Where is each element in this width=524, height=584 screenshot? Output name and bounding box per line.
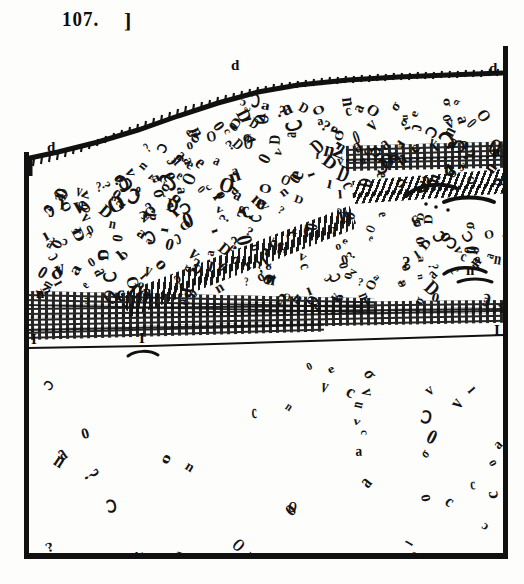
pebble-mark: v [345, 267, 359, 275]
pebble-mark: σ [465, 221, 481, 229]
cross-section-figure: vσvO?vnσOcσOeDOɔocaaσa?aDıↃnaɔı?ocOɔıı0e… [28, 46, 504, 554]
annotation-n-right-upper: n [492, 143, 500, 160]
pebble-mark: ? [244, 276, 249, 289]
lower-bed-contact-line [28, 332, 504, 354]
plate-canvas: 107. ] [0, 0, 524, 584]
annotation-n-center-mid: n [143, 283, 151, 300]
fossil-shell-marks [398, 174, 504, 219]
pebble-mark: c [129, 551, 145, 554]
annotation-i-left-base: I [31, 331, 37, 348]
pebble-mark: Ↄ [252, 92, 262, 110]
pebble-mark: n [327, 221, 336, 237]
pebble-mark: a [356, 443, 363, 458]
pebble-mark: σ [441, 98, 454, 107]
annotation-d-ridge: d [231, 57, 239, 74]
pebble-mark: ı [337, 183, 342, 201]
annotation-d-top-left: d [47, 139, 55, 156]
pebble-mark: Ↄ [248, 215, 262, 223]
annotation-i-right-base: I [494, 322, 500, 339]
pebble-mark: O [244, 133, 254, 153]
pebble-mark: σ [245, 551, 258, 554]
plate-bracket: ] [124, 8, 131, 34]
pebble-mark: D [96, 249, 110, 260]
annotation-n-left-mid: n [36, 285, 44, 302]
pebble-mark: e [374, 172, 391, 178]
plate-number: 107. [62, 8, 99, 31]
annotation-d-top-right: d [489, 60, 497, 77]
pebble-mark: O [258, 182, 272, 196]
annotation-i-center-base: I [139, 330, 145, 347]
pebble-mark: a [415, 256, 426, 263]
annotation-n-right-mid: n [466, 262, 474, 279]
